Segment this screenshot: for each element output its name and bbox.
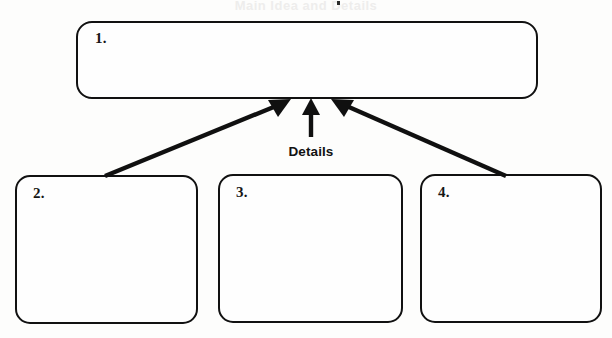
scan-speck: [337, 1, 340, 5]
arrow-left-icon: [105, 99, 291, 176]
detail-box-2[interactable]: 2.: [15, 175, 198, 324]
arrow-right-icon: [331, 99, 506, 176]
main-idea-box-number: 1.: [95, 30, 107, 47]
main-idea-box[interactable]: 1.: [76, 21, 538, 99]
detail-box-3-number: 3.: [236, 184, 248, 201]
details-connector-label: Details: [246, 144, 376, 159]
cut-off-title-text: Main Idea and Details: [235, 0, 378, 11]
detail-box-4[interactable]: 4.: [420, 174, 602, 323]
arrow-middle-icon: [302, 98, 320, 137]
worksheet-page: Main Idea and Details 1. 2. 3. 4.: [0, 0, 612, 338]
page-top-scan-artifact: Main Idea and Details: [0, 0, 612, 11]
detail-box-4-number: 4.: [438, 184, 450, 201]
detail-box-3[interactable]: 3.: [218, 174, 403, 323]
detail-box-2-number: 2.: [33, 185, 45, 202]
